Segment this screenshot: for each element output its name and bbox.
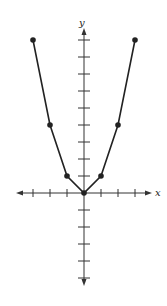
parabola-chart: x y [0,0,167,306]
data-point [115,122,121,128]
axes [16,28,152,286]
data-point [64,173,70,179]
x-axis-arrow-right-icon [145,191,152,196]
data-point [47,122,53,128]
data-point [98,173,104,179]
data-point [132,37,138,43]
y-axis-arrow-up-icon [82,28,87,35]
data-point [30,37,36,43]
x-axis-arrow-left-icon [16,191,23,196]
data-point [81,190,87,196]
x-axis-label: x [155,187,161,198]
y-axis-label: y [78,17,85,28]
y-axis-arrow-down-icon [82,279,87,286]
